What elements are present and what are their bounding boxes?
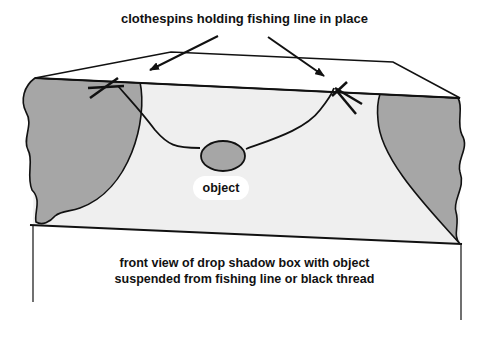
- diagram-caption: front view of drop shadow box with objec…: [0, 255, 489, 287]
- diagram-title: clothespins holding fishing line in plac…: [0, 11, 489, 26]
- caption-line-2: suspended from fishing line or black thr…: [0, 271, 489, 287]
- caption-line-1: front view of drop shadow box with objec…: [0, 255, 489, 271]
- suspended-object: [201, 141, 245, 171]
- object-label: object: [193, 176, 249, 200]
